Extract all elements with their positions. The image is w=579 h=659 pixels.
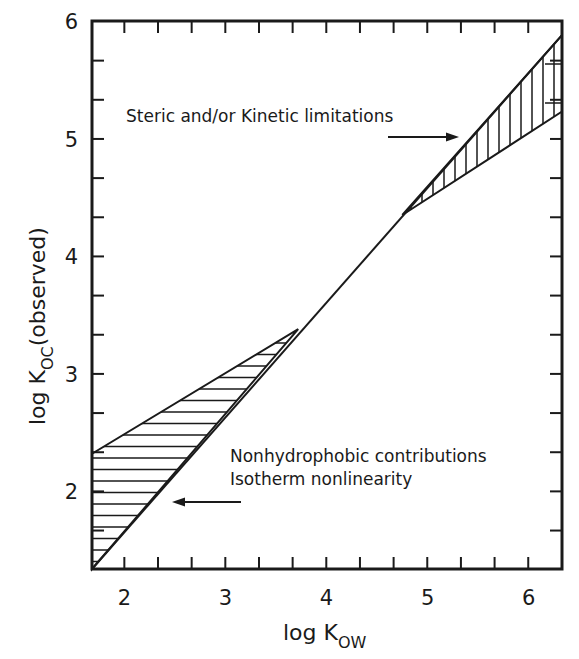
chart-canvas: 23456 23456 log KOW log KOC(observed) St… — [0, 0, 579, 659]
arrow-left-icon — [172, 498, 241, 507]
x-tick-label: 6 — [522, 586, 535, 610]
annotation-nonhydrophobic: Nonhydrophobic contributions — [230, 446, 487, 466]
x-tick-label: 2 — [118, 586, 131, 610]
x-axis-label-subscript: OW — [338, 633, 367, 652]
x-axis-tick-labels: 23456 — [118, 586, 536, 610]
arrow-right-icon — [388, 133, 459, 142]
y-axis-tick-labels: 23456 — [65, 10, 78, 504]
x-tick-label: 4 — [320, 586, 333, 610]
y-axis-label-suffix: (observed) — [25, 227, 50, 346]
x-axis-label-main: log K — [283, 620, 339, 645]
x-axis-label: log KOW — [283, 620, 367, 652]
y-tick-label: 4 — [65, 245, 78, 269]
x-tick-label: 5 — [421, 586, 434, 610]
y-axis-label-main: log K — [25, 369, 50, 425]
y-axis-label: log KOC(observed) — [25, 227, 57, 425]
annotation-steric: Steric and/or Kinetic limitations — [126, 106, 394, 126]
annotation-isotherm: Isotherm nonlinearity — [230, 469, 412, 489]
y-tick-label: 3 — [65, 363, 78, 387]
y-axis-label-subscript: OC — [38, 346, 57, 370]
x-tick-label: 3 — [219, 586, 232, 610]
y-tick-label: 2 — [65, 480, 78, 504]
y-tick-label: 5 — [65, 128, 78, 152]
y-tick-label: 6 — [65, 10, 78, 34]
